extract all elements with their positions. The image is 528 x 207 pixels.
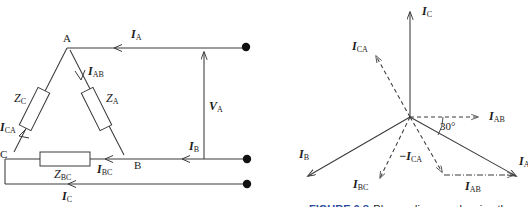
terminal-dot-a — [242, 43, 250, 51]
phasor-angle-label-30: 30° — [440, 121, 455, 132]
figure-caption-number: FIGURE 6.8 — [309, 203, 369, 207]
delta-circuit-group — [5, 45, 247, 188]
current-label-ica: ICA — [0, 121, 16, 133]
current-label-ibc: IBC — [97, 163, 112, 175]
node-label-b: B — [134, 160, 141, 171]
impedance-label-zc: ZC — [14, 92, 26, 104]
phasor-label-ia: IA — [519, 155, 528, 167]
phasor-ib — [308, 117, 410, 176]
terminal-dots-group — [242, 43, 251, 188]
current-label-iab: IAB — [88, 65, 104, 77]
impedance-label-za: ZA — [106, 92, 118, 104]
figure-drawing-layer — [0, 0, 528, 207]
phasor-label-iab-bottom: IAB — [465, 180, 481, 192]
phasor-label-ib: IB — [299, 148, 309, 160]
figure-page: A B C IA IB IC IAB IBC ICA ZC ZA ZBC VA … — [0, 0, 528, 207]
figure-caption: FIGURE 6.8 Phasor diagram showing the — [309, 199, 528, 207]
phasor-label-ic: IC — [422, 5, 432, 17]
phasor-label-iab-right: IAB — [489, 110, 505, 122]
impedance-label-zbc: ZBC — [54, 168, 71, 180]
figure-caption-text: Phasor diagram showing the — [373, 203, 512, 207]
current-label-ic: IC — [62, 190, 72, 202]
phasor-label-neg-ica: −ICA — [399, 150, 422, 162]
voltage-label-va: VA — [209, 100, 223, 112]
current-label-ib: IB — [189, 140, 199, 152]
impedance-box-zbc — [40, 152, 90, 166]
terminal-dot-b — [243, 155, 251, 163]
current-label-ia: IA — [131, 28, 141, 40]
phasor-ica — [376, 56, 410, 117]
phasor-label-ibc: IBC — [353, 178, 368, 190]
phasor-ia — [410, 117, 516, 176]
node-label-a: A — [63, 33, 71, 44]
terminal-dot-c — [243, 180, 251, 188]
phasor-label-ica: ICA — [352, 40, 368, 52]
node-label-c: C — [0, 149, 7, 160]
arrowhead-iab — [75, 70, 85, 80]
